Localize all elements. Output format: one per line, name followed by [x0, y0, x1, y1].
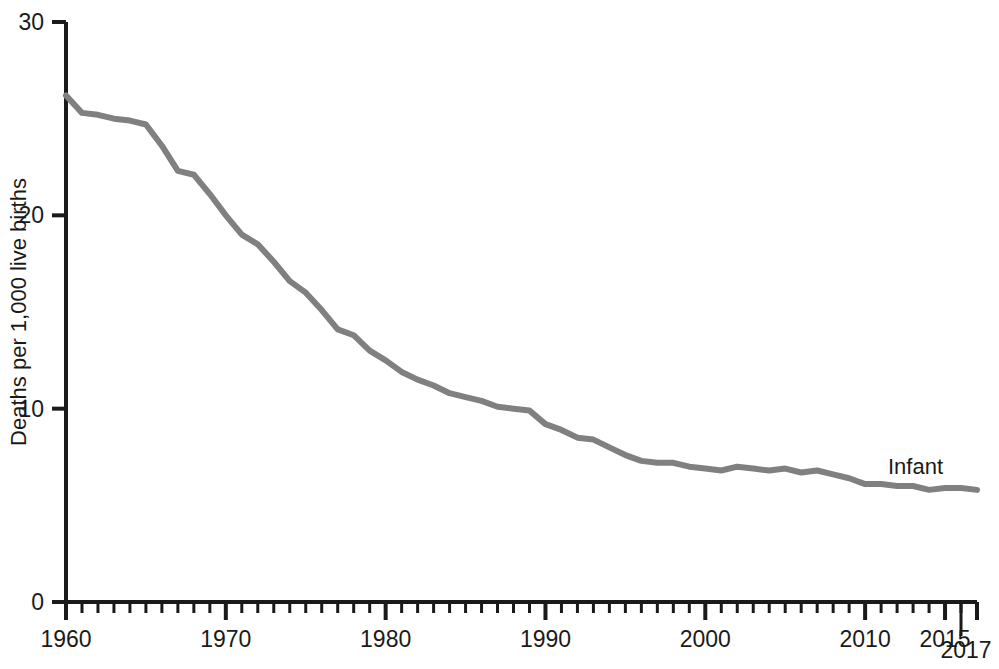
x-tick-label: 2000 [680, 626, 731, 652]
chart-canvas: 0102030 1960197019801990200020102015 Inf… [0, 0, 999, 669]
y-tick-marks [52, 22, 66, 602]
x-tick-label: 1960 [40, 626, 91, 652]
infant-mortality-line-chart: 0102030 1960197019801990200020102015 Inf… [0, 0, 999, 669]
series-label-infant: Infant [888, 454, 943, 479]
y-axis-title: Deaths per 1,000 live births [6, 178, 31, 446]
series-lines [66, 95, 977, 489]
x-tick-label: 1970 [200, 626, 251, 652]
x-tick-label: 1990 [520, 626, 571, 652]
x-tick-label: 1980 [360, 626, 411, 652]
y-tick-label: 30 [18, 9, 44, 35]
y-tick-label: 0 [31, 589, 44, 615]
end-year-callout-label: 2017 [940, 637, 991, 663]
x-tick-label: 2010 [840, 626, 891, 652]
x-major-tick-marks [66, 602, 977, 620]
x-tick-labels: 1960197019801990200020102015 [40, 626, 970, 652]
series-line-infant [66, 95, 977, 489]
